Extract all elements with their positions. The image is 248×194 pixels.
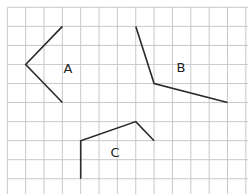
shape-a-label: A: [64, 61, 73, 76]
shape-c-label: C: [110, 145, 119, 160]
grid-diagram: A B C: [0, 0, 248, 194]
shape-b-label: B: [177, 60, 186, 75]
grid-lines: [7, 7, 248, 194]
